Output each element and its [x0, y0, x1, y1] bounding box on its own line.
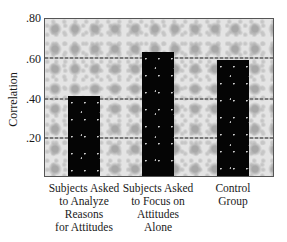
plot-area	[44, 18, 274, 177]
bar-control-group	[217, 60, 249, 176]
bar-analyze-reasons	[68, 96, 100, 176]
x-label-line: Reasons	[44, 208, 124, 221]
y-tick-60: .60	[0, 53, 41, 65]
x-label-line: Control	[193, 182, 273, 195]
x-label-line: Subjects Asked	[118, 182, 198, 195]
x-label-analyze-reasons: Subjects Asked to Analyze Reasons for At…	[44, 182, 124, 234]
x-label-line: Alone	[118, 221, 198, 234]
x-label-line: Group	[193, 195, 273, 208]
x-label-line: Subjects Asked	[44, 182, 124, 195]
x-label-control-group: Control Group	[193, 182, 273, 208]
y-axis-label: Correlation	[6, 65, 21, 135]
x-label-focus-attitudes: Subjects Asked to Focus on Attitudes Alo…	[118, 182, 198, 234]
x-label-line: to Focus on	[118, 195, 198, 208]
x-label-line: for Attitudes	[44, 221, 124, 234]
x-label-line: to Analyze	[44, 195, 124, 208]
bar-focus-attitudes	[142, 52, 174, 176]
x-label-line: Attitudes	[118, 208, 198, 221]
y-tick-80: .80	[0, 12, 41, 24]
